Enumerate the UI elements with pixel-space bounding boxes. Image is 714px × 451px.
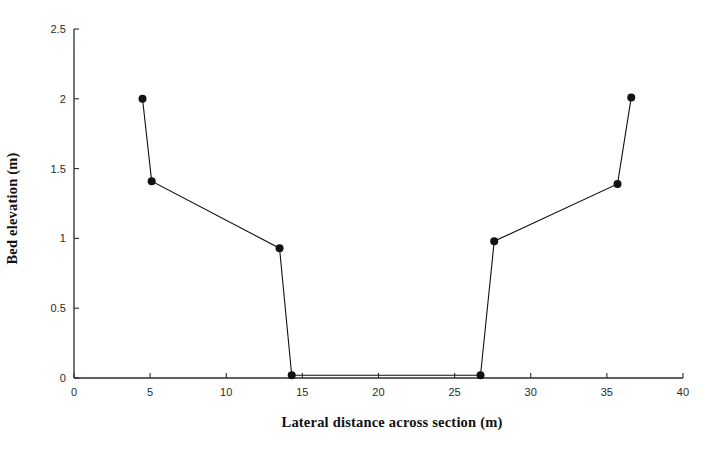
- data-point-marker: [276, 244, 284, 252]
- x-axis-tick-label: 5: [147, 386, 153, 398]
- x-axis-tick-label: 40: [677, 386, 689, 398]
- data-point-marker: [477, 371, 485, 379]
- data-point-marker: [148, 177, 156, 185]
- y-axis-ticks: [74, 29, 79, 378]
- y-axis-tick-label: 2: [0, 93, 66, 105]
- x-axis-tick-label: 10: [220, 386, 232, 398]
- y-axis-title: Bed elevation (m): [4, 152, 21, 264]
- y-axis-tick-label: 0.5: [0, 302, 66, 314]
- x-axis-tick-label: 35: [601, 386, 613, 398]
- x-axis-title: Lateral distance across section (m): [0, 414, 714, 431]
- y-axis-tick-label: 2.5: [0, 23, 66, 35]
- data-series-group: [139, 93, 636, 379]
- data-point-marker: [288, 371, 296, 379]
- x-axis-tick-label: 30: [525, 386, 537, 398]
- chart-figure: 0510152025303540 00.511.522.5 Lateral di…: [0, 0, 714, 451]
- x-axis-tick-label: 0: [71, 386, 77, 398]
- series-line-bed-elevation: [143, 97, 632, 375]
- data-point-marker: [627, 93, 635, 101]
- x-axis-tick-label: 20: [372, 386, 384, 398]
- x-axis-tick-label: 15: [296, 386, 308, 398]
- data-point-marker: [139, 95, 147, 103]
- line-chart-plot: [0, 0, 714, 451]
- data-point-marker: [614, 180, 622, 188]
- series-markers: [139, 93, 636, 379]
- x-axis-tick-label: 25: [448, 386, 460, 398]
- data-point-marker: [490, 237, 498, 245]
- axes: [74, 29, 683, 378]
- y-axis-tick-label: 0: [0, 372, 66, 384]
